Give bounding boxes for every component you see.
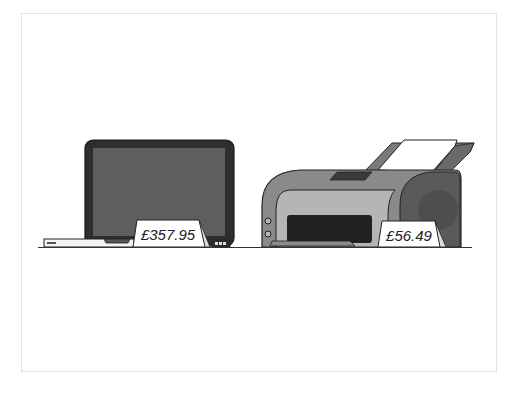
printer-price-tag: £56.49 <box>378 221 446 247</box>
shelf-illustration: £357.95 £56.49 <box>0 0 510 394</box>
laptop-price: £357.95 <box>140 226 196 243</box>
printer-price: £56.49 <box>385 227 433 244</box>
laptop-hinge <box>104 239 130 243</box>
printer-output-slot <box>287 215 372 243</box>
printer-illustration <box>262 140 474 247</box>
printer-button-icon <box>265 231 271 237</box>
laptop-price-tag: £357.95 <box>133 220 210 247</box>
printer-power-button-icon <box>265 218 271 224</box>
laptop-port-icon <box>47 242 56 244</box>
printer-top-slot <box>330 172 372 180</box>
printer-output-tray <box>270 241 355 246</box>
